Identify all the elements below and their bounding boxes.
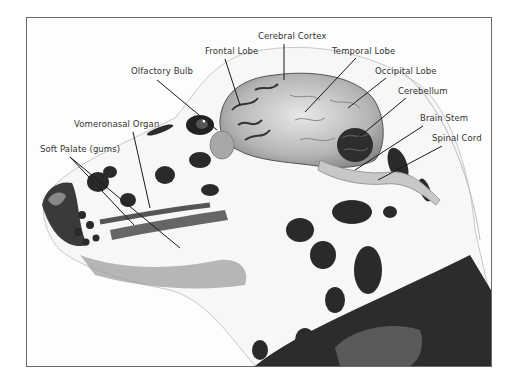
label-temporal-lobe: Temporal Lobe: [332, 46, 395, 56]
label-olfactory-bulb: Olfactory Bulb: [131, 66, 193, 76]
label-cerebellum: Cerebellum: [398, 86, 448, 96]
olfactory-bulb: [210, 131, 234, 159]
label-brain-stem: Brain Stem: [420, 113, 468, 123]
label-cerebral-cortex: Cerebral Cortex: [258, 31, 326, 41]
cerebellum: [337, 128, 373, 162]
dalmatian-anatomy-illustration: [0, 0, 519, 383]
label-occipital-lobe: Occipital Lobe: [375, 66, 437, 76]
label-soft-palate: Soft Palate (gums): [40, 144, 120, 154]
label-vomeronasal-organ: Vomeronasal Organ: [74, 119, 159, 129]
label-spinal-cord: Spinal Cord: [432, 133, 482, 143]
label-frontal-lobe: Frontal Lobe: [205, 46, 258, 56]
